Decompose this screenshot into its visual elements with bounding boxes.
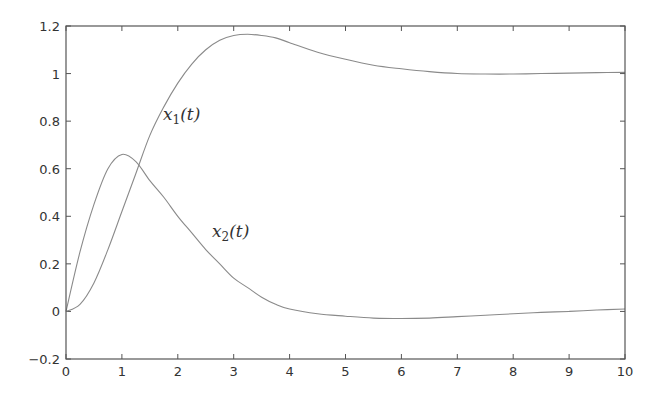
y-tick-label: 1.2	[39, 19, 60, 34]
x-tick-label: 6	[397, 364, 405, 379]
y-tick-label: 0.8	[39, 114, 60, 129]
line-chart: −0.200.20.40.60.811.2 012345678910 x1(t)…	[0, 0, 668, 397]
curve-x2t	[66, 154, 625, 318]
y-tick-label: 1	[52, 67, 60, 82]
x-tick-label: 0	[62, 364, 70, 379]
axes-frame	[66, 26, 625, 359]
x-tick-label: 1	[118, 364, 126, 379]
x-tick-label: 8	[509, 364, 517, 379]
label-x1: x1(t)	[163, 104, 200, 127]
x-tick-label: 5	[341, 364, 349, 379]
label-x2: x2(t)	[212, 221, 249, 244]
x-tick-label: 4	[285, 364, 293, 379]
plot-curves	[66, 34, 625, 318]
y-tick-label: 0.4	[39, 209, 60, 224]
y-tick-label: −0.2	[28, 352, 60, 367]
x-tick-label: 10	[617, 364, 634, 379]
x-tick-label: 3	[230, 364, 238, 379]
x-tick-label: 7	[453, 364, 461, 379]
y-tick-label: 0.6	[39, 162, 60, 177]
y-tick-label: 0	[52, 304, 60, 319]
x-axis-ticks: 012345678910	[62, 26, 633, 379]
y-tick-label: 0.2	[39, 257, 60, 272]
curve-x1t	[66, 34, 625, 311]
x-tick-label: 9	[565, 364, 573, 379]
x-tick-label: 2	[174, 364, 182, 379]
